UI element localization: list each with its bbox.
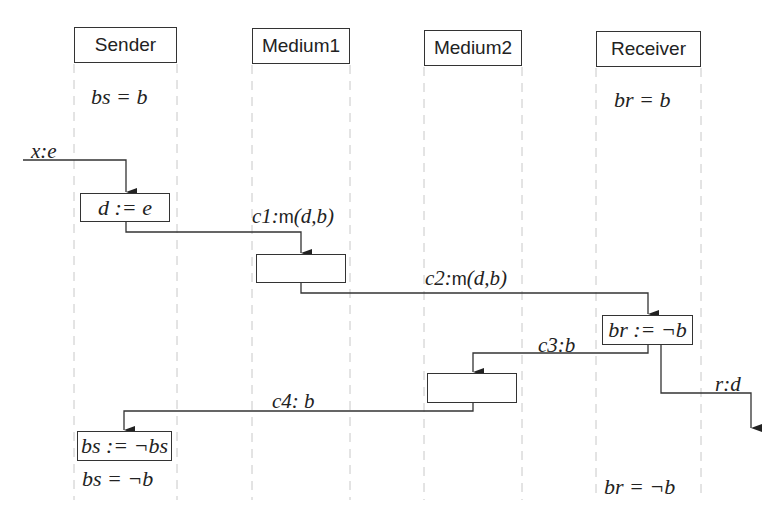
message-label-c1-channel: c1	[252, 204, 272, 228]
lifeline-header-medium1: Medium1	[252, 28, 350, 64]
receiver-final-state: br = ¬b	[604, 476, 675, 498]
message-label-c2-args: (d,b)	[467, 266, 507, 290]
action-box-medium1	[256, 254, 346, 283]
sender-final-state: bs = ¬b	[82, 468, 153, 490]
message-label-x: x:e	[31, 141, 57, 162]
lifeline-header-medium2: Medium2	[424, 30, 522, 66]
message-label-c1: c1:m(d,b)	[252, 206, 334, 227]
message-label-c2-fn: m	[452, 269, 467, 289]
action-box-toggle-bs: bs := ¬bs	[77, 431, 172, 461]
action-box-medium2	[427, 373, 517, 403]
message-label-c1-fn: m	[279, 207, 294, 227]
lifeline-header-receiver: Receiver	[596, 31, 701, 67]
message-label-c2-channel: c2	[425, 266, 445, 290]
message-label-c4: c4: b	[272, 391, 315, 412]
message-label-c3: c3:b	[538, 335, 575, 356]
receiver-initial-state: br = b	[614, 89, 670, 111]
action-box-toggle-br: br := ¬b	[602, 315, 693, 345]
lifeline-header-sender: Sender	[74, 27, 177, 63]
sender-initial-state: bs = b	[91, 86, 147, 108]
sequence-diagram: Sender Medium1 Medium2 Receiver bs = b b…	[0, 0, 774, 521]
action-box-assign-d: d := e	[80, 193, 170, 222]
message-label-c2: c2:m(d,b)	[425, 268, 507, 289]
message-label-r: r:d	[715, 374, 741, 395]
message-label-c1-args: (d,b)	[294, 204, 334, 228]
